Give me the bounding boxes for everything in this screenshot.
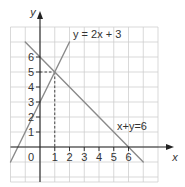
x-axis-label: x bbox=[171, 151, 178, 163]
y-tick-label: 4 bbox=[28, 81, 34, 93]
x-axis-arrow-icon bbox=[166, 144, 174, 150]
y-tick-label: 1 bbox=[28, 126, 34, 138]
coordinate-graph: 1234561234560xyy = 2x + 3x+y=6 bbox=[0, 0, 185, 187]
x-tick-label: 4 bbox=[96, 151, 102, 163]
series-label-2: x+y=6 bbox=[117, 120, 147, 132]
y-axis-label: y bbox=[29, 6, 37, 18]
x-tick-label: 3 bbox=[81, 151, 87, 163]
series-label-1: y = 2x + 3 bbox=[73, 28, 121, 40]
x-tick-label: 6 bbox=[125, 151, 131, 163]
y-tick-label: 3 bbox=[28, 96, 34, 108]
y-axis-arrow-icon bbox=[37, 11, 43, 19]
y-tick-label: 6 bbox=[28, 51, 34, 63]
origin-label: 0 bbox=[28, 151, 34, 163]
x-tick-label: 1 bbox=[52, 151, 58, 163]
y-tick-label: 2 bbox=[28, 111, 34, 123]
labels: 1234561234560xyy = 2x + 3x+y=6 bbox=[28, 6, 178, 163]
y-tick-label: 5 bbox=[28, 66, 34, 78]
x-tick-label: 2 bbox=[66, 151, 72, 163]
x-tick-label: 5 bbox=[111, 151, 117, 163]
intersection-guides bbox=[40, 72, 55, 147]
